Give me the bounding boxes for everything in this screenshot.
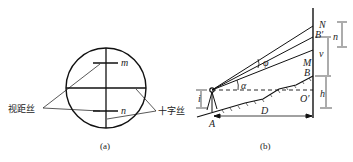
tripod-leg-left xyxy=(207,92,212,110)
label-n-a: n xyxy=(121,105,126,116)
stadia-diagram: m n 视距丝 十字丝 (a) xyxy=(0,0,353,162)
tripod-leg-right xyxy=(212,92,217,109)
label-stadia-hairs: 视距丝 xyxy=(8,103,35,114)
label-O-prime: O′ xyxy=(300,93,310,104)
caption-b: (b) xyxy=(260,141,271,151)
label-B: B xyxy=(304,67,310,78)
label-alpha: α xyxy=(241,80,247,91)
label-v: v xyxy=(319,48,324,59)
label-D: D xyxy=(260,105,269,116)
label-B-prime: B′ xyxy=(315,29,324,40)
leader-stadia-upper xyxy=(43,64,100,108)
label-phi: φ xyxy=(263,57,269,68)
label-i: i xyxy=(198,93,201,104)
d-arrow-right xyxy=(306,114,312,118)
ground-profile xyxy=(197,76,313,117)
label-m: m xyxy=(121,57,128,68)
phi-arc xyxy=(258,59,259,68)
label-crosshair: 十字丝 xyxy=(158,105,185,116)
caption-a: (a) xyxy=(100,141,110,151)
label-n-b: n xyxy=(333,31,338,42)
leader-crosshair-vertical xyxy=(107,111,156,119)
figure-a xyxy=(43,48,156,128)
label-h: h xyxy=(320,88,325,99)
alpha-arc xyxy=(237,80,238,90)
label-A: A xyxy=(208,118,216,129)
